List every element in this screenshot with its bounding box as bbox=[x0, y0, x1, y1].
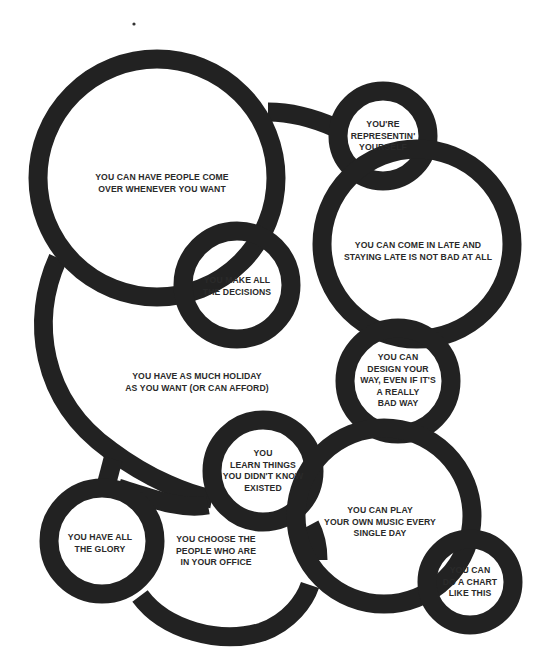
node-label-all-the-glory: YOU HAVE ALLTHE GLORY bbox=[68, 531, 132, 554]
node-label-line: YOU'RE bbox=[351, 118, 416, 130]
node-label-learn-things: YOULEARN THINGSYOU DIDN'T KNOWEXISTED bbox=[223, 447, 304, 493]
node-label-line: LIKE THIS bbox=[443, 587, 497, 599]
node-label-line: YOU CAN bbox=[360, 351, 436, 363]
node-label-line: YOU DIDN'T KNOW bbox=[223, 470, 304, 482]
node-label-line: YOU MAKE ALL bbox=[203, 274, 271, 286]
node-label-line: PEOPLE WHO ARE bbox=[176, 544, 256, 556]
node-label-line: BAD WAY bbox=[360, 397, 436, 409]
node-label-line: THE DECISIONS bbox=[203, 285, 271, 297]
node-label-line: SINGLE DAY bbox=[324, 527, 436, 539]
node-label-line: YOU CAN bbox=[443, 564, 497, 576]
node-label-people-come-over: YOU CAN HAVE PEOPLE COMEOVER WHENEVER YO… bbox=[95, 171, 228, 194]
node-label-play-music: YOU CAN PLAYYOUR OWN MUSIC EVERYSINGLE D… bbox=[324, 504, 436, 539]
node-label-line: YOURSELF bbox=[351, 141, 416, 153]
node-label-line: YOU CAN HAVE PEOPLE COME bbox=[95, 171, 228, 183]
node-label-line: YOU bbox=[223, 447, 304, 459]
node-label-line: EXISTED bbox=[223, 482, 304, 494]
node-label-line: STAYING LATE IS NOT BAD AT ALL bbox=[344, 250, 492, 262]
node-label-line: YOU HAVE ALL bbox=[68, 531, 132, 543]
node-label-line: THE GLORY bbox=[68, 542, 132, 554]
node-label-come-in-late: YOU CAN COME IN LATE ANDSTAYING LATE IS … bbox=[344, 239, 492, 262]
node-label-make-decisions: YOU MAKE ALLTHE DECISIONS bbox=[203, 274, 271, 297]
connector-people-representin bbox=[268, 112, 336, 128]
node-label-choose-people: YOU CHOOSE THEPEOPLE WHO AREIN YOUR OFFI… bbox=[176, 533, 256, 568]
node-label-design-your-way: YOU CANDESIGN YOURWAY, EVEN IF IT'SA REA… bbox=[360, 351, 436, 409]
node-label-line: YOU CAN COME IN LATE AND bbox=[344, 239, 492, 251]
node-label-line: DESIGN YOUR bbox=[360, 363, 436, 375]
node-label-line: DO A CHART bbox=[443, 575, 497, 587]
node-label-line: REPRESENTIN' bbox=[351, 129, 416, 141]
node-label-line: YOU CAN PLAY bbox=[324, 504, 436, 516]
node-label-do-a-chart: YOU CANDO A CHARTLIKE THIS bbox=[443, 564, 497, 599]
node-label-line: YOU CHOOSE THE bbox=[176, 533, 256, 545]
node-label-line: YOUR OWN MUSIC EVERY bbox=[324, 515, 436, 527]
node-label-line: AS YOU WANT (OR CAN AFFORD) bbox=[125, 381, 268, 393]
node-label-line: LEARN THINGS bbox=[223, 459, 304, 471]
node-label-line: WAY, EVEN IF IT'S bbox=[360, 374, 436, 386]
node-label-holiday: YOU HAVE AS MUCH HOLIDAYAS YOU WANT (OR … bbox=[125, 370, 268, 393]
choose-people-arc bbox=[140, 585, 310, 637]
node-label-line: A REALLY bbox=[360, 386, 436, 398]
stray-dot bbox=[132, 22, 135, 25]
node-label-line: YOU HAVE AS MUCH HOLIDAY bbox=[125, 370, 268, 382]
connector-glory-holiday bbox=[107, 459, 113, 482]
node-label-representin: YOU'REREPRESENTIN'YOURSELF bbox=[351, 118, 416, 153]
node-label-line: IN YOUR OFFICE bbox=[176, 556, 256, 568]
node-label-line: OVER WHENEVER YOU WANT bbox=[95, 182, 228, 194]
